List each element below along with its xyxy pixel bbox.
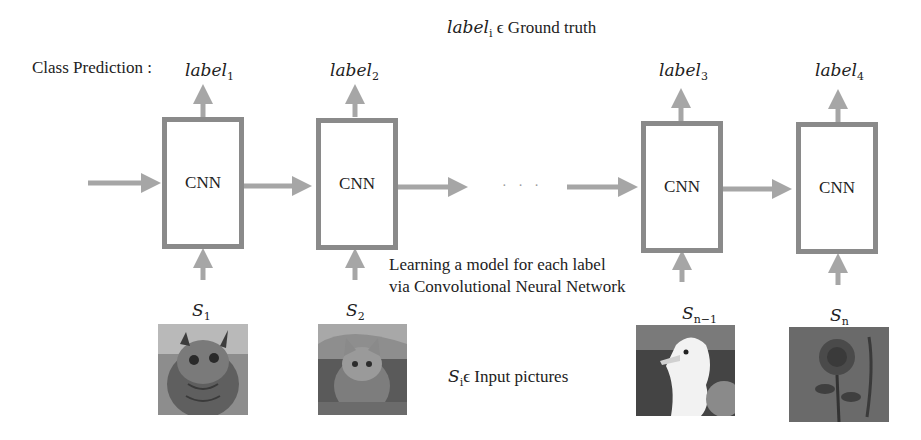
cnn-block-label: CNN	[339, 174, 375, 194]
input-picture-seagull	[636, 325, 735, 416]
cnn-block-label: CNN	[185, 173, 221, 193]
input-picture-owl	[158, 324, 248, 415]
input-caption: Siϵ Input pictures	[448, 366, 568, 389]
cnn-block-3: CNN	[641, 121, 723, 253]
ellipsis: · · ·	[502, 178, 543, 194]
input-label-3: Sn−1	[682, 303, 717, 326]
input-caption-symbol: Si	[448, 366, 463, 386]
cnn-block-2: CNN	[316, 118, 398, 250]
cnn-block-1: CNN	[162, 117, 244, 249]
cnn-block-label: CNN	[664, 177, 700, 197]
rose-image	[789, 327, 889, 422]
input-label-2: S2	[346, 300, 365, 323]
input-caption-text: ϵ Input pictures	[463, 367, 568, 386]
cat-image	[318, 324, 407, 415]
seagull-image	[636, 325, 735, 416]
input-picture-rose	[789, 327, 889, 422]
input-label-4: Sn	[830, 305, 849, 328]
cnn-block-label: CNN	[819, 178, 855, 198]
input-picture-cat	[318, 324, 407, 415]
input-label-1: S1	[192, 300, 211, 323]
description-line-2: via Convolutional Neural Network	[389, 277, 626, 297]
cnn-block-4: CNN	[796, 122, 878, 254]
description-line-1: Learning a model for each label	[389, 255, 606, 275]
owl-image	[158, 324, 248, 415]
